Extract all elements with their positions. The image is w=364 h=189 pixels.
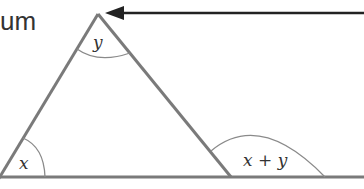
- arrow-head-icon: [105, 6, 124, 20]
- apex-angle-arc: [77, 49, 130, 58]
- exterior-angle-label: x + y: [243, 150, 288, 170]
- triangle-exterior-angle-diagram: y x x + y: [0, 0, 364, 189]
- triangle-right-side: [98, 14, 231, 177]
- apex-angle-label: y: [92, 32, 103, 52]
- triangle-left-side: [0, 14, 98, 180]
- left-angle-label: x: [19, 153, 29, 173]
